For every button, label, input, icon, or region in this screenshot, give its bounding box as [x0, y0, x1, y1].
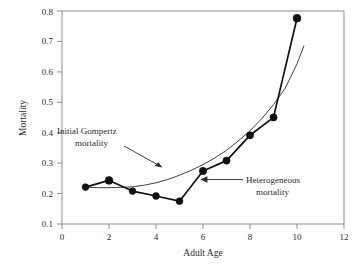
annotation-initial-gompertz: Initial Gompertz mortality: [57, 126, 163, 168]
annotation-heterogeneous-line1: Heterogeneous: [246, 175, 300, 185]
y-axis-title: Mortality: [18, 100, 28, 136]
y-tick-label-4: 0.5: [42, 97, 54, 107]
data-point-age-1: [82, 184, 89, 191]
annotation-gompertz-arrow-head: [155, 162, 163, 167]
annotation-heterogeneous: Heterogeneous mortality: [200, 175, 300, 197]
y-tick-label-6: 0.7: [42, 36, 54, 46]
data-point-age-6: [199, 167, 206, 174]
x-tick-label-12: 12: [340, 232, 349, 242]
y-tick-label-0: 0.1: [42, 219, 53, 229]
data-point-age-10: [293, 14, 301, 22]
data-point-age-5: [176, 198, 183, 205]
y-tick-label-1: 0.2: [42, 189, 53, 199]
data-point-age-4: [153, 193, 160, 200]
x-tick-label-10: 10: [293, 232, 303, 242]
figure-container: 0.1 0.2 0.3 0.4 0.5 0.6 0.7 0.8 0 2 4 6 …: [0, 0, 357, 267]
y-tick-label-2: 0.3: [42, 158, 54, 168]
y-tick-label-5: 0.6: [42, 67, 54, 77]
y-axis-ticks: [57, 11, 62, 224]
x-tick-label-0: 0: [60, 232, 65, 242]
data-point-age-2: [105, 177, 113, 185]
x-axis-tick-labels: 0 2 4 6 8 10 12: [60, 232, 349, 242]
annotation-gompertz-line1: Initial Gompertz: [57, 126, 117, 136]
y-tick-label-3: 0.4: [42, 128, 54, 138]
x-tick-label-6: 6: [201, 232, 206, 242]
x-tick-label-4: 4: [154, 232, 159, 242]
x-axis-title: Adult Age: [183, 248, 222, 258]
data-point-age-7: [223, 157, 230, 164]
x-axis-ticks: [62, 224, 344, 229]
data-point-age-9: [270, 114, 277, 121]
data-point-age-8: [246, 132, 253, 139]
y-axis-tick-labels: 0.1 0.2 0.3 0.4 0.5 0.6 0.7 0.8: [42, 7, 54, 230]
data-point-age-3: [129, 188, 136, 195]
mortality-line-chart: 0.1 0.2 0.3 0.4 0.5 0.6 0.7 0.8 0 2 4 6 …: [0, 0, 357, 267]
annotation-heterogeneous-arrow-head: [200, 176, 207, 182]
heterogeneous-mortality-line: [86, 18, 298, 201]
y-tick-label-7: 0.8: [42, 7, 54, 17]
x-tick-label-8: 8: [248, 232, 253, 242]
annotation-heterogeneous-line2: mortality: [256, 187, 289, 197]
annotation-gompertz-arrow-line: [124, 146, 160, 166]
annotation-gompertz-line2: mortality: [75, 138, 108, 148]
x-tick-label-2: 2: [107, 232, 112, 242]
plot-frame: [62, 11, 344, 224]
